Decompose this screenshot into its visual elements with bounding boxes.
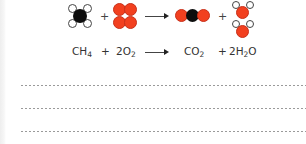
carbon-atom <box>73 9 87 23</box>
oxygen-atom <box>124 3 137 16</box>
methane-formula: CH4 <box>72 46 92 59</box>
oxygen-atom <box>236 6 249 19</box>
plus-sign: + <box>100 11 109 22</box>
answer-line-3[interactable] <box>20 131 306 132</box>
water-formula: 2H2O <box>229 46 257 59</box>
oxygen-atom <box>236 25 249 38</box>
oxygen-formula: 2O2 <box>116 46 136 59</box>
plus-sign: + <box>218 46 227 57</box>
page-edge-shadow <box>0 0 6 144</box>
plus-sign: + <box>101 46 110 57</box>
plus-sign: + <box>218 11 227 22</box>
reaction-arrow-icon <box>145 16 167 17</box>
answer-line-1[interactable] <box>20 85 306 86</box>
oxygen-atom <box>124 16 137 29</box>
oxygen-atom <box>197 9 210 22</box>
answer-line-2[interactable] <box>20 108 306 109</box>
carbon-dioxide-formula: CO2 <box>184 46 204 59</box>
reaction-arrow-icon <box>145 52 167 53</box>
